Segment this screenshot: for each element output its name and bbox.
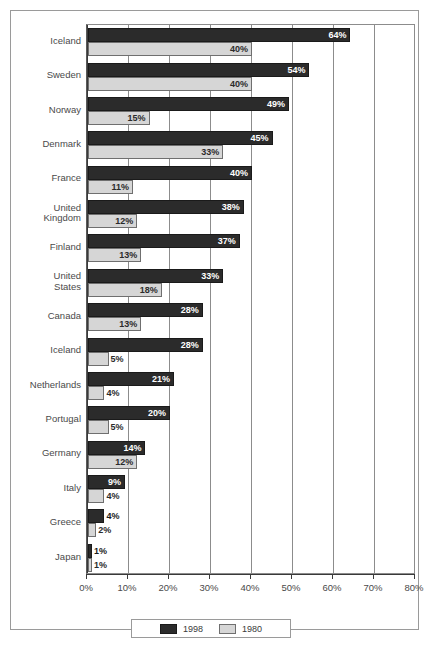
value-axis-tick-label: 60%: [322, 582, 341, 593]
value-axis-tick-label: 10%: [117, 582, 136, 593]
bar-value-label: 13%: [119, 250, 137, 260]
dark-swatch-icon: [160, 624, 177, 634]
bar-1998-5: 38%: [88, 200, 244, 214]
bar-value-label: 54%: [287, 65, 305, 75]
legend-label-1998: 1998: [183, 624, 203, 634]
value-axis-tick: [291, 574, 292, 579]
category-axis: IcelandSwedenNorwayDenmarkFranceUnited K…: [11, 24, 85, 574]
bar-1980-5: 12%: [88, 214, 137, 228]
legend-label-1980: 1980: [242, 624, 262, 634]
bar-value-label: 40%: [230, 44, 248, 54]
value-axis-tick: [373, 574, 374, 579]
bar-value-label: 1%: [94, 560, 107, 570]
value-axis-tick: [250, 574, 251, 579]
category-label: Iceland: [9, 345, 81, 356]
bar-value-label: 33%: [201, 271, 219, 281]
bar-1998-8: 28%: [88, 303, 203, 317]
value-axis-tick-label: 40%: [240, 582, 259, 593]
value-axis-tick-label: 0%: [79, 582, 93, 593]
value-axis-tick: [86, 574, 87, 579]
category-label: United States: [9, 271, 81, 292]
bar-1980-13: 4%: [88, 489, 104, 503]
bar-value-label: 9%: [108, 477, 121, 487]
category-label: Portugal: [9, 414, 81, 425]
value-axis-tick: [127, 574, 128, 579]
bar-1980-11: 5%: [88, 420, 109, 434]
bar-1998-13: 9%: [88, 475, 125, 489]
bar-value-label: 14%: [123, 443, 141, 453]
category-label: Sweden: [9, 70, 81, 81]
bar-value-label: 64%: [328, 30, 346, 40]
value-axis-tick-label: 80%: [404, 582, 423, 593]
category-label: Germany: [9, 448, 81, 459]
bar-1998-15: 1%: [88, 544, 92, 558]
gridline-60: [333, 25, 334, 573]
bar-1980-1: 40%: [88, 77, 252, 91]
bar-value-label: 12%: [115, 216, 133, 226]
value-axis-tick: [168, 574, 169, 579]
value-axis-tick: [209, 574, 210, 579]
bar-1980-15: 1%: [88, 558, 92, 572]
bar-1998-10: 21%: [88, 372, 174, 386]
category-label: Greece: [9, 517, 81, 528]
bar-1998-4: 40%: [88, 166, 252, 180]
chart-legend: 1998 1980: [131, 619, 291, 638]
bar-1998-1: 54%: [88, 63, 309, 77]
category-label: France: [9, 173, 81, 184]
bar-value-label: 28%: [181, 340, 199, 350]
bar-value-label: 49%: [267, 99, 285, 109]
bar-value-label: 5%: [111, 422, 124, 432]
bar-value-label: 1%: [94, 546, 107, 556]
bar-1998-14: 4%: [88, 509, 104, 523]
bar-1980-8: 13%: [88, 317, 141, 331]
bar-value-label: 28%: [181, 305, 199, 315]
bar-value-label: 37%: [218, 236, 236, 246]
bar-value-label: 21%: [152, 374, 170, 384]
bar-value-label: 18%: [140, 285, 158, 295]
bar-1980-10: 4%: [88, 386, 104, 400]
plot-area: 64%40%54%40%49%15%45%33%40%11%38%12%37%1…: [86, 24, 415, 574]
bar-1998-11: 20%: [88, 406, 170, 420]
category-label: Italy: [9, 483, 81, 494]
chart-plot-block: IcelandSwedenNorwayDenmarkFranceUnited K…: [11, 11, 420, 631]
bar-1980-7: 18%: [88, 283, 162, 297]
bar-value-label: 5%: [111, 354, 124, 364]
category-label: Netherlands: [9, 380, 81, 391]
bar-value-label: 4%: [106, 388, 119, 398]
bar-value-label: 38%: [222, 202, 240, 212]
legend-item-1998: 1998: [160, 624, 203, 634]
category-label: Iceland: [9, 36, 81, 47]
gridline-50: [292, 25, 293, 573]
value-axis: 0%10%20%30%40%50%60%70%80%: [86, 574, 415, 604]
value-axis-tick-label: 30%: [199, 582, 218, 593]
bar-value-label: 4%: [106, 511, 119, 521]
bar-1980-3: 33%: [88, 145, 223, 159]
bar-1980-6: 13%: [88, 248, 141, 262]
bar-1980-4: 11%: [88, 180, 133, 194]
bar-value-label: 2%: [98, 525, 111, 535]
gridline-70: [374, 25, 375, 573]
bar-1998-3: 45%: [88, 131, 273, 145]
value-axis-tick: [414, 574, 415, 579]
bar-value-label: 40%: [230, 168, 248, 178]
category-label: Canada: [9, 311, 81, 322]
bar-1980-14: 2%: [88, 523, 96, 537]
chart-figure: IcelandSwedenNorwayDenmarkFranceUnited K…: [10, 10, 419, 630]
bar-value-label: 33%: [201, 147, 219, 157]
value-axis-tick: [332, 574, 333, 579]
light-swatch-icon: [219, 624, 236, 634]
bar-value-label: 12%: [115, 457, 133, 467]
bar-1998-9: 28%: [88, 338, 203, 352]
bar-1998-6: 37%: [88, 234, 240, 248]
value-axis-tick-label: 70%: [363, 582, 382, 593]
bar-1980-12: 12%: [88, 455, 137, 469]
bar-value-label: 13%: [119, 319, 137, 329]
bar-1998-12: 14%: [88, 441, 145, 455]
bar-1980-9: 5%: [88, 352, 109, 366]
bar-1998-7: 33%: [88, 269, 223, 283]
value-axis-tick-label: 50%: [281, 582, 300, 593]
bar-value-label: 15%: [127, 113, 145, 123]
bar-1998-2: 49%: [88, 97, 289, 111]
bar-value-label: 4%: [106, 491, 119, 501]
bar-1998-0: 64%: [88, 28, 350, 42]
